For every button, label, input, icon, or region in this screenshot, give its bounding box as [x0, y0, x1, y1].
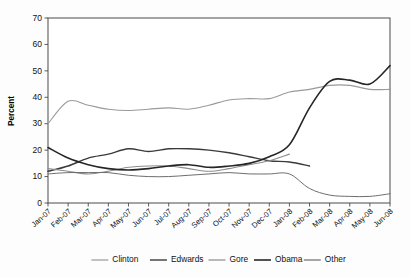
x-tick-label: Jun-08 — [372, 207, 395, 229]
x-tick-label: Jan-07 — [30, 207, 53, 229]
x-tick-label: Jan-08 — [271, 207, 294, 229]
legend-label-gore[interactable]: Gore — [230, 254, 249, 264]
y-tick-label: 50 — [33, 66, 43, 76]
legend-label-obama[interactable]: Obama — [275, 254, 303, 264]
chart-figure: Percent 010203040506070 Jan-07Feb-07Mar-… — [0, 0, 410, 277]
y-tick-label: 10 — [33, 171, 43, 181]
x-tick-label: Sep-07 — [190, 207, 214, 230]
x-tick-label: Nov-07 — [230, 207, 254, 230]
y-tick-label: 70 — [33, 13, 43, 23]
legend-label-other[interactable]: Other — [325, 254, 346, 264]
x-tick-label: Aug-07 — [169, 207, 193, 230]
x-tick-label: Oct-07 — [211, 207, 234, 229]
x-tick-label: May-07 — [108, 207, 133, 231]
chart-legend: ClintonEdwardsGoreObamaOther — [91, 254, 346, 264]
x-tick-label: Mar-07 — [69, 207, 93, 230]
y-tick-label: 20 — [33, 145, 43, 155]
y-tick-label: 0 — [37, 198, 42, 208]
legend-label-clinton[interactable]: Clinton — [112, 254, 138, 264]
x-tick-label: May-08 — [350, 207, 375, 231]
legend-label-edwards[interactable]: Edwards — [171, 254, 204, 264]
x-tick-label: Dec-07 — [250, 207, 274, 230]
y-axis-ticks: 010203040506070 — [33, 13, 48, 208]
x-tick-label: Feb-07 — [49, 207, 73, 230]
y-tick-label: 40 — [33, 92, 43, 102]
x-axis-ticks: Jan-07Feb-07Mar-07Apr-07May-07Jun-07Jul-… — [30, 203, 395, 230]
x-tick-label: Jun-07 — [130, 207, 153, 229]
x-tick-label: Mar-08 — [311, 207, 335, 230]
line-chart: Percent 010203040506070 Jan-07Feb-07Mar-… — [0, 0, 410, 277]
y-tick-label: 60 — [33, 39, 43, 49]
y-tick-label: 30 — [33, 118, 43, 128]
y-axis-title: Percent — [7, 96, 16, 126]
plot-area — [48, 18, 390, 203]
x-tick-label: Feb-08 — [290, 207, 314, 230]
